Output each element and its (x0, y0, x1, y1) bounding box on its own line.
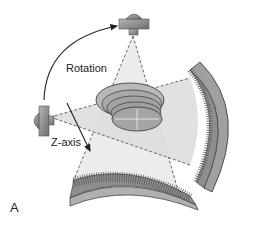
panel-label: A (10, 200, 19, 215)
rotation-label: Rotation (66, 62, 107, 74)
x-ray-tube-top (119, 14, 149, 35)
detector-arc-bottom (70, 174, 198, 210)
x-ray-tube-left (34, 106, 54, 136)
z-axis-label: Z-axis (51, 136, 81, 148)
diagram-canvas (0, 0, 253, 242)
